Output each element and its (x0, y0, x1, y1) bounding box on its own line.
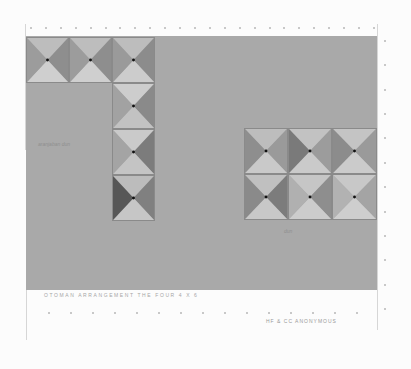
stud-tile (112, 83, 155, 129)
signature: HF & CC ANONYMOUS (266, 318, 337, 324)
drawing-sheet: aranjaban dun dun OTOMAN ARRANGEMENT THE… (0, 0, 411, 369)
artwork-caption: OTOMAN ARRANGEMENT THE FOUR 4 X 6 (44, 292, 198, 298)
stud-tile (112, 175, 155, 221)
stud-tile (288, 174, 332, 220)
stud-tile (332, 174, 377, 220)
panel-note-right: dun (284, 228, 292, 234)
bottom-tick-marks (48, 312, 358, 314)
top-tick-marks (30, 27, 375, 29)
panel-note-left: aranjaban dun (38, 141, 70, 147)
right-margin-line (377, 24, 378, 330)
stud-tile (244, 174, 288, 220)
stud-tile (69, 37, 112, 83)
stud-tile (288, 128, 332, 174)
stud-tile (112, 37, 155, 83)
stud-tile (112, 129, 155, 175)
right-tick-marks (384, 40, 386, 310)
stud-tile (332, 128, 377, 174)
left-margin-line-lower (26, 290, 27, 340)
stud-tile (26, 37, 69, 83)
stud-tile (244, 128, 288, 174)
